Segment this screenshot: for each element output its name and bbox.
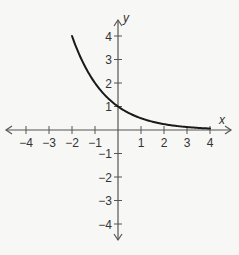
axes — [6, 20, 231, 240]
x-tick-label: 4 — [207, 136, 214, 150]
exponential-curve — [72, 36, 210, 129]
y-axis-label: y — [122, 11, 130, 25]
x-tick-label: −3 — [42, 136, 56, 150]
y-tick-label: 4 — [105, 30, 112, 44]
y-tick-label: −2 — [98, 171, 112, 185]
x-tick-label: 3 — [184, 136, 191, 150]
curve — [72, 36, 210, 129]
x-axis-label: x — [218, 113, 226, 127]
x-tick-label: −2 — [65, 136, 79, 150]
x-tick-label: 2 — [161, 136, 168, 150]
y-tick-label: 3 — [105, 53, 112, 67]
y-tick-label: −3 — [98, 194, 112, 208]
x-tick-label: 1 — [138, 136, 145, 150]
y-tick-label: −1 — [98, 147, 112, 161]
x-tick-label: −4 — [19, 136, 33, 150]
y-tick-label: −4 — [98, 218, 112, 232]
y-tick-label: 2 — [105, 77, 112, 91]
exponential-decay-chart: −4−3−2−112344321−1−2−3−4 x y — [0, 0, 239, 255]
